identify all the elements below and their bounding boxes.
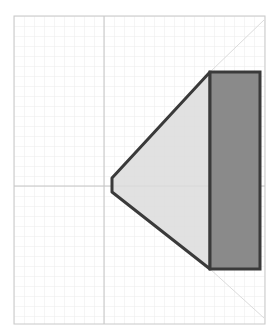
rectangle-block — [210, 72, 260, 269]
diagram-canvas — [0, 0, 276, 334]
